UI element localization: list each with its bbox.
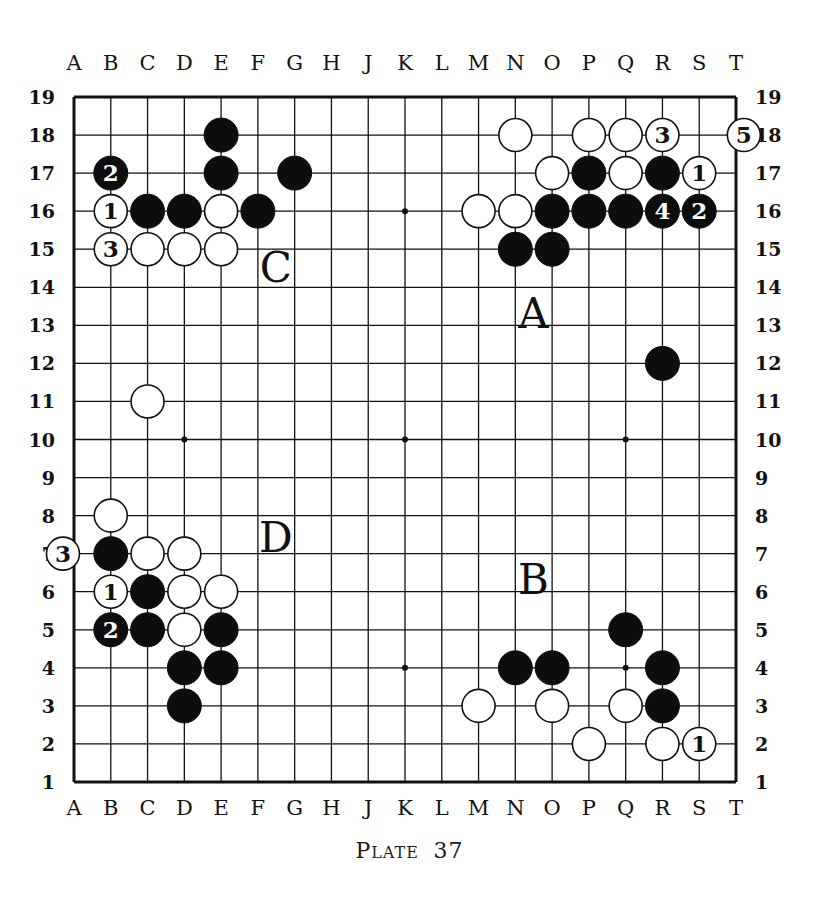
black-stone xyxy=(572,156,606,190)
column-label-bottom: E xyxy=(213,796,228,820)
black-stone xyxy=(609,613,643,647)
row-label-right: 7 xyxy=(755,543,768,565)
column-label-top: O xyxy=(544,51,561,75)
white-stone xyxy=(168,575,201,608)
column-label-bottom: R xyxy=(655,796,672,820)
white-stone xyxy=(168,537,201,570)
column-label-top: S xyxy=(692,51,706,75)
row-label-right: 13 xyxy=(755,314,781,336)
row-label-left: 4 xyxy=(42,657,55,679)
black-stone xyxy=(94,537,128,571)
black-stone xyxy=(278,156,312,190)
column-label-bottom: M xyxy=(468,796,490,820)
row-label-right: 8 xyxy=(755,505,768,527)
row-label-right: 3 xyxy=(755,695,768,717)
black-stone xyxy=(241,194,275,228)
column-label-top: B xyxy=(103,51,118,75)
row-label-right: 15 xyxy=(755,238,781,260)
row-label-left: 12 xyxy=(29,352,55,374)
white-stone-move-3: 3 xyxy=(46,537,79,570)
white-stone xyxy=(131,233,164,266)
black-stone xyxy=(167,651,201,685)
go-board-diagram: AABBCCDDEEFFGGHHJJKKLLMMNNOOPPQQRRSSTT19… xyxy=(0,0,819,910)
black-stone xyxy=(572,194,606,228)
move-number-label: 2 xyxy=(691,197,707,224)
black-stone xyxy=(645,156,679,190)
white-stone-move-5: 5 xyxy=(727,119,760,152)
black-stone-move-4: 4 xyxy=(645,194,679,228)
region-labels: CADB xyxy=(259,243,549,604)
row-label-right: 9 xyxy=(755,467,768,489)
column-label-bottom: P xyxy=(582,796,596,820)
black-stone xyxy=(204,156,238,190)
column-label-bottom: S xyxy=(692,796,706,820)
move-number-label: 3 xyxy=(654,121,670,148)
row-label-left: 16 xyxy=(29,200,55,222)
white-stone-move-1: 1 xyxy=(683,727,716,760)
region-label-b: B xyxy=(518,555,549,604)
region-label-d: D xyxy=(259,513,293,562)
column-label-top: H xyxy=(322,51,340,75)
column-label-top: D xyxy=(176,51,193,75)
column-label-bottom: T xyxy=(729,796,743,820)
black-stone xyxy=(167,194,201,228)
caption-plate-number: 37 xyxy=(434,838,464,863)
white-stone xyxy=(131,385,164,418)
white-stone-move-1: 1 xyxy=(94,575,127,608)
white-stone xyxy=(646,727,679,760)
row-label-right: 19 xyxy=(755,86,781,108)
row-label-left: 8 xyxy=(42,505,55,527)
white-stone xyxy=(131,537,164,570)
plate-caption: PLATE 37 xyxy=(0,838,819,863)
row-label-left: 18 xyxy=(29,124,55,146)
column-label-top: M xyxy=(468,51,490,75)
region-label-a: A xyxy=(517,289,549,338)
white-stone xyxy=(536,689,569,722)
move-number-label: 3 xyxy=(103,235,119,262)
white-stone xyxy=(94,499,127,532)
column-label-bottom: D xyxy=(176,796,193,820)
column-label-bottom: B xyxy=(103,796,118,820)
move-number-label: 4 xyxy=(654,197,670,224)
black-stone-move-2: 2 xyxy=(94,613,128,647)
star-point xyxy=(181,437,187,443)
white-stone xyxy=(609,689,642,722)
white-stone-move-1: 1 xyxy=(683,157,716,190)
row-label-left: 2 xyxy=(42,733,55,755)
column-label-bottom: C xyxy=(140,796,156,820)
star-point xyxy=(402,437,408,443)
row-label-right: 6 xyxy=(755,581,768,603)
column-label-top: G xyxy=(286,51,303,75)
column-label-top: J xyxy=(362,51,372,75)
black-stone xyxy=(204,651,238,685)
row-label-left: 1 xyxy=(42,771,55,793)
star-point xyxy=(402,208,408,214)
row-label-left: 9 xyxy=(42,467,55,489)
column-label-bottom: J xyxy=(362,796,372,820)
row-label-left: 6 xyxy=(42,581,55,603)
black-stone xyxy=(131,575,165,609)
row-label-left: 10 xyxy=(29,429,55,451)
row-label-right: 12 xyxy=(755,352,781,374)
caption-plate-initial: P xyxy=(355,838,371,863)
black-stone xyxy=(645,689,679,723)
row-label-right: 16 xyxy=(755,200,781,222)
column-label-top: P xyxy=(582,51,596,75)
column-label-top: L xyxy=(435,51,449,75)
column-label-bottom: H xyxy=(322,796,340,820)
row-label-left: 11 xyxy=(29,390,55,412)
white-stone xyxy=(609,157,642,190)
white-stone-move-3: 3 xyxy=(94,233,127,266)
black-stone xyxy=(535,232,569,266)
column-label-top: N xyxy=(506,51,524,75)
row-label-left: 14 xyxy=(29,276,55,298)
black-stone xyxy=(204,613,238,647)
white-stone xyxy=(205,195,238,228)
star-point xyxy=(402,665,408,671)
column-label-bottom: G xyxy=(286,796,303,820)
row-label-left: 15 xyxy=(29,238,55,260)
move-number-label: 2 xyxy=(103,616,119,643)
white-stone xyxy=(462,689,495,722)
move-number-label: 1 xyxy=(103,197,119,224)
white-stone xyxy=(499,119,532,152)
